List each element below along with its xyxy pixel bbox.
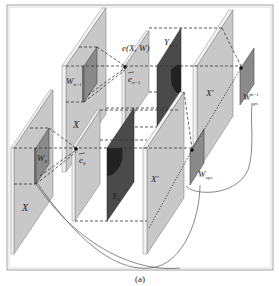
point-e-0 xyxy=(74,147,78,151)
label-xprime-back: X′ xyxy=(205,88,214,98)
diagram-figure: X X W0 Wn−1 e0 en−1 e(X, W) Y0 Yn−1 X′ X… xyxy=(0,0,279,286)
point-e-n-1 xyxy=(123,65,127,69)
label-w-ops-n-1: Wn−1ops xyxy=(243,92,259,106)
label-x-front: X xyxy=(21,202,29,213)
plane-y-0 xyxy=(107,108,134,221)
label-xprime-front: X′ xyxy=(150,174,159,184)
point-w-ops xyxy=(190,148,194,152)
plane-x-front xyxy=(11,90,53,254)
point-w-ops-n-1 xyxy=(239,66,243,70)
figure-caption: (a) xyxy=(135,274,145,284)
label-w-ops: Wops xyxy=(198,169,213,180)
label-x-back: X xyxy=(72,119,80,130)
label-e-x-w: e(X, W) xyxy=(122,43,149,53)
